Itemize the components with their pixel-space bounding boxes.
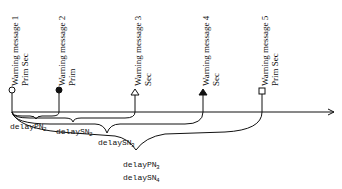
- svg-text:delayPN: delayPN: [123, 160, 157, 169]
- delay-label-1: delayPN 2: [10, 122, 47, 133]
- square-open-icon: [259, 88, 265, 94]
- delay-label-4: delayPN 3: [123, 160, 160, 171]
- timeline-diagram: Warning message 1 Prim Sec Warning messa…: [0, 0, 342, 189]
- circle-open-icon: [9, 87, 15, 93]
- triangle-filled-icon: [199, 89, 207, 95]
- delay-label-3: delaySN 3: [98, 138, 135, 149]
- message-5-type: Prim Sec: [270, 53, 280, 86]
- message-1-type: Prim Sec: [20, 53, 30, 86]
- circle-filled-icon: [56, 87, 62, 93]
- message-1-title: Warning message 1: [10, 16, 20, 86]
- svg-text:delaySN: delaySN: [123, 173, 157, 182]
- brace-delaySN2: [12, 112, 135, 122]
- delay-label-5: delaySN 4: [123, 173, 160, 184]
- svg-text:2: 2: [89, 131, 93, 138]
- delay-label-2: delaySN 2: [56, 127, 93, 138]
- message-3-title: Warning message 3: [133, 15, 143, 86]
- triangle-open-icon: [131, 89, 139, 95]
- message-2-type: Prim: [67, 68, 77, 86]
- svg-text:3: 3: [131, 142, 135, 149]
- svg-text:delaySN: delaySN: [56, 127, 90, 136]
- svg-text:4: 4: [156, 177, 160, 184]
- svg-text:delaySN: delaySN: [98, 138, 132, 147]
- message-4-type: Sec: [211, 73, 221, 86]
- svg-text:delayPN: delayPN: [10, 122, 44, 131]
- message-2-title: Warning message 2: [57, 16, 67, 86]
- message-5-title: Warning message 5: [260, 15, 270, 86]
- svg-text:3: 3: [156, 164, 160, 171]
- message-3-type: Sec: [143, 73, 153, 86]
- svg-text:2: 2: [43, 126, 47, 133]
- message-4-title: Warning message 4: [201, 15, 211, 86]
